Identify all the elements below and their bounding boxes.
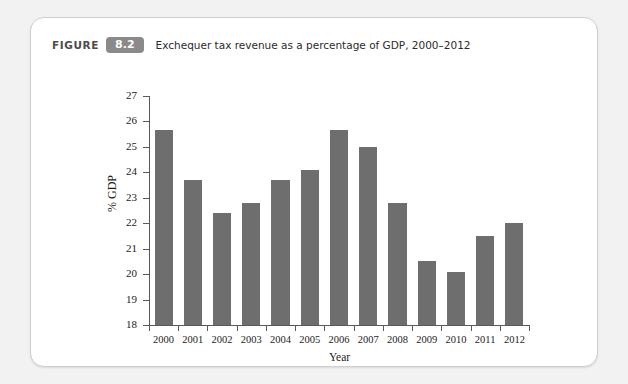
x-axis-tick — [354, 326, 355, 331]
y-axis-tick-label: 19 — [97, 293, 137, 305]
y-axis-tick — [143, 147, 149, 148]
x-axis-tick — [207, 326, 208, 331]
y-axis-title: % GDP — [105, 175, 120, 212]
x-axis-title: Year — [149, 351, 530, 363]
bar — [271, 180, 289, 325]
y-axis-tick — [143, 121, 149, 122]
y-axis-tick-label: 20 — [97, 267, 137, 279]
x-axis-tick — [441, 326, 442, 331]
bar — [242, 203, 260, 325]
x-axis-tick — [412, 326, 413, 331]
bar — [155, 130, 173, 325]
y-axis-tick — [143, 198, 149, 199]
x-axis-tick — [383, 326, 384, 331]
figure-header: FIGURE 8.2 Exchequer tax revenue as a pe… — [52, 35, 471, 55]
y-axis-tick — [143, 96, 149, 97]
x-axis-tick — [149, 326, 150, 331]
x-axis-tick — [295, 326, 296, 331]
figure-caption: Exchequer tax revenue as a percentage of… — [156, 39, 471, 51]
y-axis-tick — [143, 223, 149, 224]
bar — [301, 170, 319, 325]
y-axis-tick — [143, 274, 149, 275]
x-axis-tick — [529, 326, 530, 331]
bar — [388, 203, 406, 325]
bar — [184, 180, 202, 325]
y-axis-line — [149, 96, 150, 326]
y-axis-tick-label: 21 — [97, 242, 137, 254]
figure-label: FIGURE — [52, 39, 99, 51]
x-axis-tick — [324, 326, 325, 331]
y-axis-tick-label: 22 — [97, 216, 137, 228]
figure-card: FIGURE 8.2 Exchequer tax revenue as a pe… — [30, 17, 598, 367]
x-axis-tick-label: 2012 — [494, 334, 534, 345]
bar — [359, 147, 377, 325]
bar — [476, 236, 494, 325]
x-axis-tick — [500, 326, 501, 331]
bar — [418, 261, 436, 325]
x-axis-tick — [471, 326, 472, 331]
y-axis-tick-label: 18 — [97, 318, 137, 330]
figure-number-badge: 8.2 — [106, 37, 144, 53]
x-axis-line — [149, 325, 530, 326]
bar — [213, 213, 231, 325]
y-axis-tick-label: 26 — [97, 114, 137, 126]
y-axis-tick — [143, 172, 149, 173]
x-axis-tick — [266, 326, 267, 331]
x-axis-tick — [237, 326, 238, 331]
y-axis-tick-label: 25 — [97, 140, 137, 152]
y-axis-tick — [143, 249, 149, 250]
y-axis-tick — [143, 300, 149, 301]
x-axis-tick — [178, 326, 179, 331]
bar — [330, 130, 348, 325]
bar — [505, 223, 523, 325]
y-axis-tick-label: 27 — [97, 89, 137, 101]
bar — [447, 272, 465, 325]
